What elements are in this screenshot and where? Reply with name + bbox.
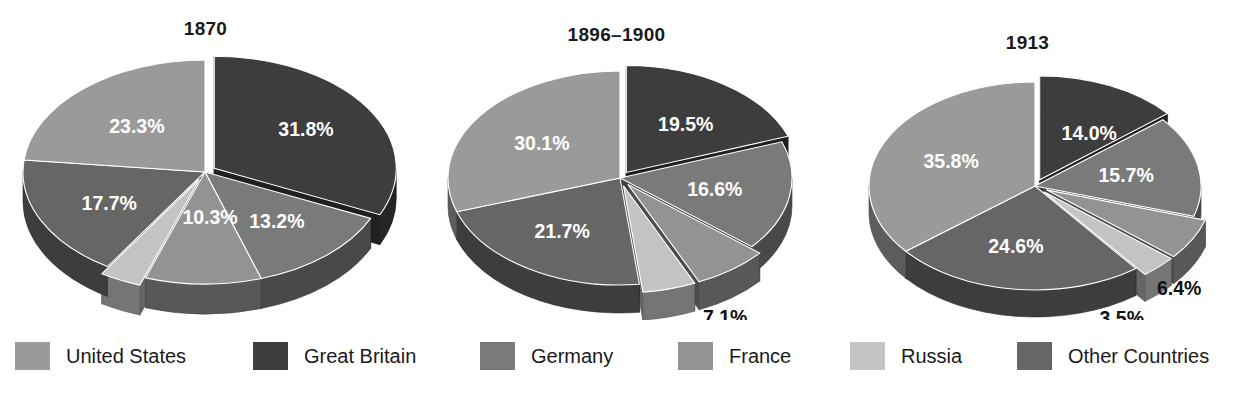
legend-swatch-other-countries	[1017, 342, 1052, 370]
pie-slice-label-france: 6.4%	[1157, 277, 1201, 299]
pie-slice-label-germany: 15.7%	[1098, 164, 1153, 186]
pie-svg-1870: 31.8%13.2%10.3%3.7%17.7%23.3%	[0, 0, 411, 320]
legend-item-great-britain[interactable]: Great Britain	[253, 336, 416, 376]
legend-label-united-states: United States	[66, 345, 186, 368]
legend-item-france[interactable]: France	[678, 336, 791, 376]
pie-svg-1913: 14.0%15.7%6.4%3.5%24.6%35.8%	[822, 0, 1234, 320]
pie-charts-row: 1870 31.8%13.2%10.3%3.7%17.7%23.3% 1896–…	[0, 0, 1234, 320]
legend-label-germany: Germany	[531, 345, 613, 368]
pie-slice-label-germany: 13.2%	[249, 210, 304, 232]
pie-slice-label-united-states: 35.8%	[923, 150, 978, 172]
chart-legend: United StatesGreat BritainGermanyFranceR…	[0, 336, 1234, 384]
pie-svg-1896-1900: 19.5%16.6%7.1%5.0%21.7%30.1%	[411, 0, 822, 320]
pie-slice-label-united-states: 23.3%	[109, 115, 164, 137]
pie-slice-label-great-britain: 19.5%	[658, 113, 713, 135]
pie-slice-label-other-countries: 17.7%	[82, 192, 137, 214]
pie-chart-1870: 1870 31.8%13.2%10.3%3.7%17.7%23.3%	[0, 0, 411, 320]
legend-swatch-germany	[480, 342, 515, 370]
legend-label-russia: Russia	[901, 345, 962, 368]
pie-slice-label-united-states: 30.1%	[514, 132, 569, 154]
legend-label-other-countries: Other Countries	[1068, 345, 1209, 368]
pie-chart-1913: 1913 14.0%15.7%6.4%3.5%24.6%35.8%	[822, 0, 1233, 320]
legend-swatch-great-britain	[253, 342, 288, 370]
pie-chart-figure: 1870 31.8%13.2%10.3%3.7%17.7%23.3% 1896–…	[0, 0, 1234, 401]
legend-item-other-countries[interactable]: Other Countries	[1017, 336, 1209, 376]
legend-item-united-states[interactable]: United States	[15, 336, 186, 376]
legend-label-france: France	[729, 345, 791, 368]
pie-slice-label-other-countries: 21.7%	[534, 220, 589, 242]
pie-slice-label-other-countries: 24.6%	[988, 235, 1043, 257]
legend-swatch-france	[678, 342, 713, 370]
pie-slice-label-france: 7.1%	[703, 306, 747, 320]
pie-slice-label-germany: 16.6%	[687, 178, 742, 200]
pie-slice-label-great-britain: 31.8%	[278, 118, 333, 140]
legend-item-russia[interactable]: Russia	[850, 336, 962, 376]
legend-swatch-russia	[850, 342, 885, 370]
pie-slice-label-russia: 3.5%	[1100, 307, 1144, 320]
pie-chart-1896-1900: 1896–1900 19.5%16.6%7.1%5.0%21.7%30.1%	[411, 0, 822, 320]
pie-slice-label-russia: 3.7%	[92, 317, 136, 320]
legend-label-great-britain: Great Britain	[304, 345, 416, 368]
pie-slice-label-great-britain: 14.0%	[1062, 122, 1117, 144]
pie-slice-label-france: 10.3%	[182, 206, 237, 228]
legend-item-germany[interactable]: Germany	[480, 336, 613, 376]
legend-swatch-united-states	[15, 342, 50, 370]
